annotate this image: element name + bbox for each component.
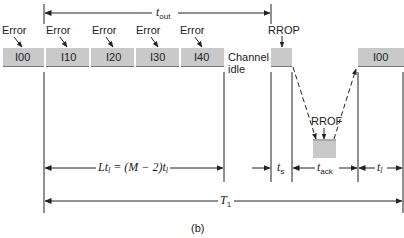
t-out-label: tout bbox=[156, 5, 171, 21]
frame-i00: Error I00 bbox=[2, 24, 44, 67]
t-l-label: tl bbox=[377, 160, 383, 175]
frame-i40: Error I40 bbox=[180, 24, 224, 67]
t-out-interval: tout bbox=[44, 4, 271, 24]
error-label: Error bbox=[46, 24, 71, 36]
svg-text:I40: I40 bbox=[194, 51, 209, 63]
t-ack-interval: tack bbox=[293, 160, 357, 176]
rrop-label: RROP bbox=[268, 24, 300, 36]
frame-i30: Error I30 bbox=[136, 24, 179, 67]
go-back-n-timing-diagram: tout Error I00 Error I10 Error I20 Error bbox=[0, 0, 404, 238]
rrop-frame: RROP bbox=[268, 24, 300, 67]
rrof-label: RROF bbox=[311, 115, 342, 127]
t1-label: T1 bbox=[220, 193, 232, 209]
frame-i10: Error I10 bbox=[46, 24, 89, 67]
svg-text:I20: I20 bbox=[106, 51, 121, 63]
frame-sequence: Error I00 Error I10 Error I20 Error I30 bbox=[2, 24, 224, 67]
channel-idle-label-line1: Channel bbox=[228, 51, 269, 63]
t-s-interval: ts bbox=[252, 160, 284, 176]
svg-text:I30: I30 bbox=[150, 51, 165, 63]
retransmit-frame-i00: I00 bbox=[358, 48, 404, 67]
rrof-propagation-arrow bbox=[334, 69, 356, 139]
error-label: Error bbox=[136, 24, 161, 36]
figure-caption: (b) bbox=[191, 222, 204, 234]
lt-label: Ltl = (M − 2)tl bbox=[97, 160, 169, 175]
t-ack-label: tack bbox=[317, 160, 334, 176]
t-s-label: ts bbox=[277, 160, 284, 176]
svg-text:I00: I00 bbox=[373, 51, 388, 63]
lt-interval: Ltl = (M − 2)tl bbox=[45, 160, 223, 175]
rrop-propagation-arrow bbox=[293, 67, 316, 139]
frame-i20: Error I20 bbox=[91, 24, 134, 67]
error-label: Error bbox=[92, 24, 117, 36]
error-label: Error bbox=[2, 24, 27, 36]
channel-idle-label-line2: idle bbox=[228, 63, 245, 75]
reference-lines bbox=[44, 72, 403, 213]
svg-text:I10: I10 bbox=[61, 51, 76, 63]
svg-text:I00: I00 bbox=[15, 51, 30, 63]
t1-interval: T1 bbox=[45, 193, 402, 209]
error-label: Error bbox=[180, 24, 205, 36]
t-l-interval: tl bbox=[359, 160, 402, 175]
